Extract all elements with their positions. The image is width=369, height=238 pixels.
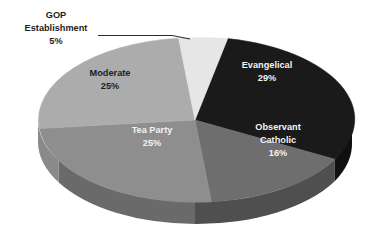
label-tea-party-percent: 25% xyxy=(143,138,161,148)
label-moderate-name: Moderate xyxy=(90,68,131,78)
pie-chart-canvas: Evangelical 29% Observant Catholic 16% T… xyxy=(0,0,369,238)
pie-slice-tea-party[interactable] xyxy=(39,120,211,202)
pie-chart-figure: Evangelical 29% Observant Catholic 16% T… xyxy=(0,0,369,238)
label-moderate-percent: 25% xyxy=(101,81,119,91)
pie-slices xyxy=(38,37,354,202)
label-observant-catholic-percent: 16% xyxy=(269,148,287,158)
label-gop-establishment-name-line2: Establishment xyxy=(25,23,88,33)
label-gop-establishment: GOP Establishment 5% xyxy=(25,10,88,46)
label-observant-catholic-name: Observant xyxy=(255,122,300,132)
label-observant-catholic-name-line2: Catholic xyxy=(260,135,296,145)
label-tea-party-name: Tea Party xyxy=(132,125,174,135)
label-evangelical-name: Evangelical xyxy=(242,60,293,70)
label-gop-establishment-name: GOP xyxy=(46,10,66,20)
label-gop-establishment-percent: 5% xyxy=(49,36,62,46)
label-evangelical-percent: 29% xyxy=(258,73,276,83)
